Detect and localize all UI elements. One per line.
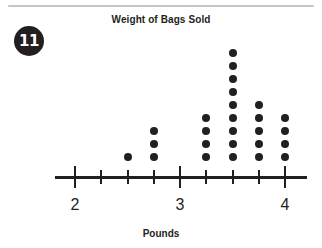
data-dot bbox=[202, 140, 210, 148]
data-dot bbox=[229, 62, 237, 70]
data-dot bbox=[150, 153, 158, 161]
x-axis-major-tick bbox=[74, 166, 76, 188]
x-axis-line bbox=[55, 176, 307, 179]
data-dot bbox=[255, 101, 263, 109]
x-axis-minor-tick bbox=[153, 170, 155, 184]
x-axis-tick-label: 4 bbox=[265, 196, 305, 214]
data-dot bbox=[229, 153, 237, 161]
data-dot bbox=[150, 127, 158, 135]
x-axis-minor-tick bbox=[258, 170, 260, 184]
data-dot bbox=[255, 153, 263, 161]
dot-plot-area: 234 bbox=[0, 0, 322, 248]
data-dot bbox=[202, 114, 210, 122]
data-dot bbox=[281, 127, 289, 135]
data-dot bbox=[281, 114, 289, 122]
data-dot bbox=[124, 153, 132, 161]
x-axis-tick-label: 3 bbox=[160, 196, 200, 214]
data-dot bbox=[255, 114, 263, 122]
x-axis-major-tick bbox=[179, 166, 181, 188]
x-axis-label: Pounds bbox=[0, 228, 322, 239]
data-dot bbox=[255, 140, 263, 148]
data-dot bbox=[150, 140, 158, 148]
data-dot bbox=[229, 49, 237, 57]
data-dot bbox=[229, 101, 237, 109]
data-dot bbox=[229, 75, 237, 83]
data-dot bbox=[202, 127, 210, 135]
data-dot bbox=[229, 140, 237, 148]
data-dot bbox=[255, 127, 263, 135]
data-dot bbox=[281, 140, 289, 148]
worksheet-page: 11 Weight of Bags Sold 234 Pounds bbox=[0, 0, 322, 248]
x-axis-tick-label: 2 bbox=[55, 196, 95, 214]
data-dot bbox=[229, 127, 237, 135]
x-axis-minor-tick bbox=[100, 170, 102, 184]
data-dot bbox=[229, 88, 237, 96]
x-axis-minor-tick bbox=[127, 170, 129, 184]
x-axis-major-tick bbox=[284, 166, 286, 188]
data-dot bbox=[202, 153, 210, 161]
data-dot bbox=[229, 114, 237, 122]
x-axis-minor-tick bbox=[232, 170, 234, 184]
x-axis-minor-tick bbox=[205, 170, 207, 184]
data-dot bbox=[281, 153, 289, 161]
